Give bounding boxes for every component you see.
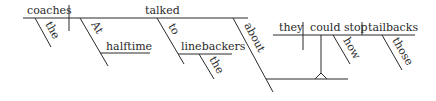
halftime-object-word: halftime — [106, 40, 152, 53]
clause-verb-word: could stop — [310, 21, 368, 34]
subject-word: coaches — [27, 4, 72, 17]
subject-modifier-word: the — [42, 19, 62, 41]
clause-object-modifier-word: those — [389, 35, 415, 68]
clause-verb-modifier-word: how — [340, 35, 363, 62]
sentence-diagram: coaches talked the At halftime to lineba… — [0, 0, 436, 101]
at-preposition-word: At — [88, 18, 106, 36]
linebackers-modifier-word: the — [206, 54, 226, 76]
to-preposition-word: to — [165, 21, 182, 37]
clause-object-word: tailbacks — [368, 21, 418, 34]
verb-word: talked — [145, 4, 180, 17]
linebackers-object-word: linebackers — [181, 40, 246, 53]
clause-subject-word: they — [279, 21, 304, 34]
diagram-canvas: coaches talked the At halftime to lineba… — [0, 0, 436, 101]
